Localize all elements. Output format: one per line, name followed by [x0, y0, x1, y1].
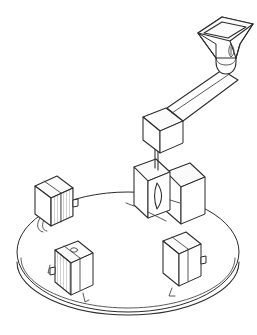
hopper-spout — [216, 57, 236, 74]
feed-hopper — [198, 17, 253, 58]
station-box-center-right — [166, 163, 205, 224]
drawing-canvas: Rotary carousel machine assembly Isometr… — [0, 0, 257, 335]
conveyor-arm — [167, 70, 238, 121]
technical-drawing — [0, 0, 257, 335]
